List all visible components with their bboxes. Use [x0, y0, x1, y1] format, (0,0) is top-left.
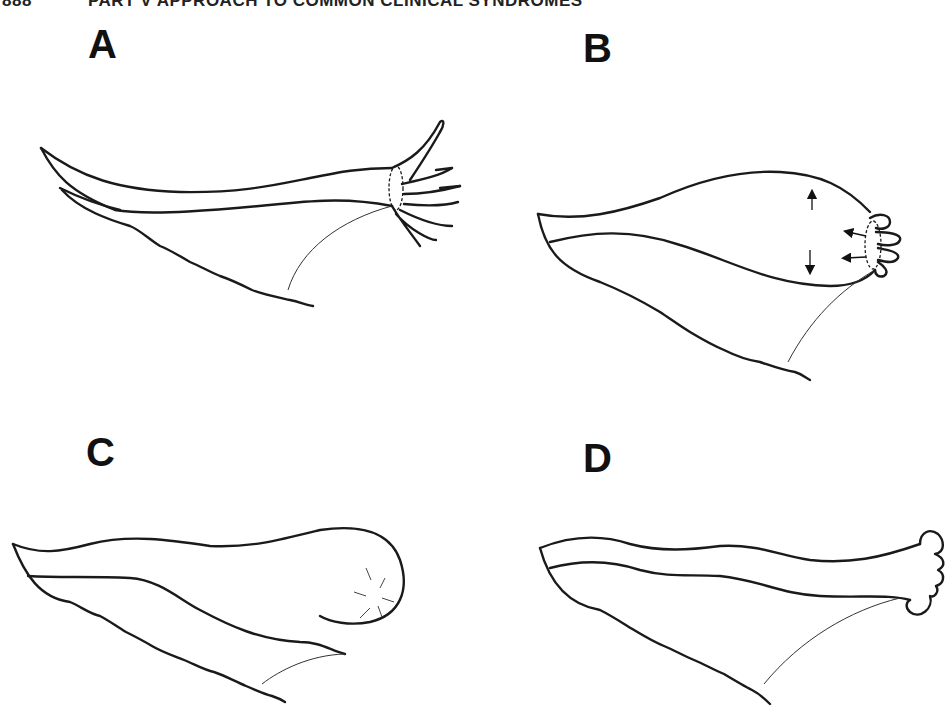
- panel-d-drawing: [540, 531, 943, 704]
- panel-b-drawing: [538, 172, 900, 380]
- panel-c-drawing: [13, 528, 404, 702]
- panel-a-drawing: [41, 121, 460, 306]
- tube-diagrams: [0, 0, 952, 715]
- occlusion-mark: [354, 568, 394, 618]
